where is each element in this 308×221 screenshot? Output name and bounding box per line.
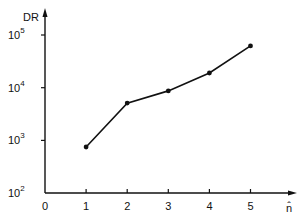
x-tick-label: 4 [206, 200, 212, 212]
data-point-marker [207, 71, 212, 76]
y-tick-label: 103 [8, 131, 25, 146]
line-chart: DR 102103104105 n̂ 012345 [0, 0, 308, 221]
x-tick-label: 5 [248, 200, 254, 212]
series-line [86, 46, 250, 147]
data-point-marker [125, 101, 130, 106]
y-tick-label: 104 [8, 79, 25, 94]
data-series [84, 44, 253, 150]
y-axis-arrow-icon [43, 8, 48, 17]
data-point-marker [166, 88, 171, 93]
x-axis-arrow-icon [288, 191, 297, 196]
x-tick-label: 3 [165, 200, 171, 212]
x-tick-label: 0 [42, 200, 48, 212]
y-tick-label: 102 [8, 184, 25, 199]
x-tick-label: 1 [83, 200, 89, 212]
y-axis: DR 102103104105 [8, 8, 48, 199]
data-point-marker [84, 145, 89, 150]
x-axis: n̂ 012345 [42, 189, 297, 214]
x-tick-label: 2 [124, 200, 130, 212]
y-tick-label: 105 [8, 26, 25, 41]
y-axis-label: DR [23, 11, 39, 23]
x-axis-label: n̂ [286, 201, 292, 214]
data-point-marker [248, 44, 253, 49]
